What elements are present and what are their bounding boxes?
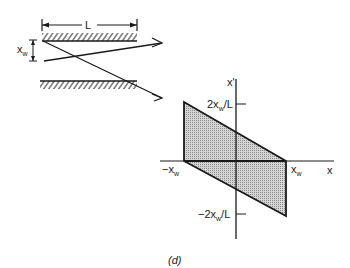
top-mirror bbox=[42, 33, 137, 41]
arrow-left-icon bbox=[42, 23, 49, 28]
phase-space-area bbox=[184, 102, 286, 216]
arrow-down-icon bbox=[31, 56, 35, 61]
figure-caption: (d) bbox=[168, 254, 182, 266]
figure-canvas: L xw bbox=[0, 0, 350, 268]
arrow-right-icon bbox=[130, 23, 137, 28]
neg-xw-label: −xw bbox=[162, 163, 180, 177]
ray-down bbox=[43, 41, 162, 98]
ray-arrow-top-icon bbox=[152, 38, 162, 47]
bottom-tick-label: −2xw/L bbox=[198, 208, 230, 222]
pos-xw-label: xw bbox=[291, 163, 303, 177]
length-label: L bbox=[85, 19, 91, 31]
width-label: xw bbox=[17, 43, 29, 57]
optics-schematic: L xw bbox=[17, 19, 162, 101]
y-axis-label: x' bbox=[227, 76, 235, 88]
x-axis-label: x bbox=[327, 164, 333, 176]
length-dimension: L bbox=[42, 19, 137, 31]
bottom-mirror bbox=[40, 81, 137, 89]
phase-space-diagram: x' x xw −xw 2xw/L −2xw/L bbox=[160, 76, 334, 239]
ray-up bbox=[44, 43, 162, 61]
top-tick-label: 2xw/L bbox=[207, 98, 233, 112]
rays bbox=[43, 38, 162, 101]
width-dimension: xw bbox=[17, 40, 37, 61]
arrow-up-icon bbox=[31, 40, 35, 45]
